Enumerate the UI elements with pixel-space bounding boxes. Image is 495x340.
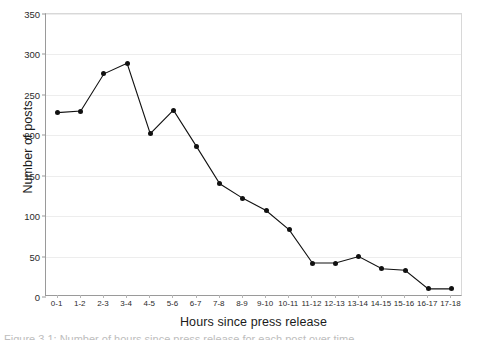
figure-chart: Number of posts 050100150200250300350 0-… (0, 0, 495, 340)
series-line (46, 14, 463, 297)
x-tick-mark (311, 295, 312, 298)
x-tick-label: 1-2 (74, 299, 86, 308)
plot-area: 050100150200250300350 (45, 13, 462, 296)
y-tick-label: 100 (0, 211, 46, 222)
x-tick-mark (335, 295, 336, 298)
x-tick-mark (219, 295, 220, 298)
y-tick-label: 250 (0, 89, 46, 100)
x-tick-mark (450, 295, 451, 298)
x-tick-label: 10-11 (278, 299, 298, 308)
x-tick-label: 4-5 (143, 299, 155, 308)
y-tick-label: 200 (0, 130, 46, 141)
x-axis-title: Hours since press release (45, 315, 462, 329)
data-point-marker (403, 268, 408, 273)
x-tick-label: 5-6 (167, 299, 179, 308)
x-tick-mark (103, 295, 104, 298)
data-point-marker (148, 131, 153, 136)
x-tick-label: 6-7 (190, 299, 202, 308)
data-point-marker (171, 108, 176, 113)
y-tick-label: 50 (0, 251, 46, 262)
x-tick-mark (404, 295, 405, 298)
x-tick-mark (57, 295, 58, 298)
x-tick-label: 11-12 (301, 299, 321, 308)
x-tick-label: 16-17 (417, 299, 437, 308)
y-axis-title: Number of posts (21, 62, 35, 232)
data-point-marker (310, 261, 315, 266)
data-point-marker (78, 109, 83, 114)
x-tick-label: 3-4 (120, 299, 132, 308)
y-tick-label: 300 (0, 49, 46, 60)
x-tick-label: 17-18 (440, 299, 460, 308)
x-axis-tick-labels: 0-11-22-33-44-55-66-77-88-99-1010-1111-1… (45, 299, 462, 313)
data-point-marker (264, 208, 269, 213)
data-point-marker (333, 261, 338, 266)
x-tick-mark (265, 295, 266, 298)
x-tick-label: 15-16 (394, 299, 414, 308)
x-tick-mark (80, 295, 81, 298)
x-tick-label: 2-3 (97, 299, 109, 308)
x-tick-label: 13-14 (348, 299, 368, 308)
x-tick-label: 0-1 (51, 299, 63, 308)
x-tick-mark (381, 295, 382, 298)
x-tick-label: 8-9 (236, 299, 248, 308)
x-tick-mark (358, 295, 359, 298)
x-tick-mark (288, 295, 289, 298)
y-tick-label: 350 (0, 9, 46, 20)
y-tick-label: 0 (0, 292, 46, 303)
data-point-marker (125, 61, 130, 66)
x-tick-mark (242, 295, 243, 298)
x-tick-mark (172, 295, 173, 298)
x-tick-mark (126, 295, 127, 298)
y-tick-label: 150 (0, 170, 46, 181)
x-tick-mark (427, 295, 428, 298)
x-tick-label: 14-15 (371, 299, 391, 308)
x-tick-label: 9-10 (257, 299, 273, 308)
data-series-number-of-posts (46, 14, 461, 295)
x-tick-label: 12-13 (324, 299, 344, 308)
x-tick-mark (196, 295, 197, 298)
x-tick-label: 7-8 (213, 299, 225, 308)
figure-caption: Figure 3.1: Number of hours since press … (4, 333, 491, 340)
x-tick-mark (149, 295, 150, 298)
